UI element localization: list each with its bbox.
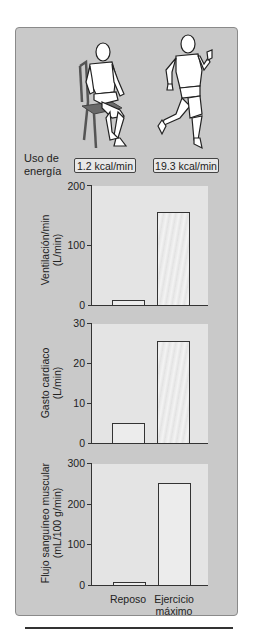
muscle-y-label: Flujo sanguíneo muscular (mL/100 g/min) [39, 457, 65, 589]
bar-rest [112, 423, 145, 444]
bar-exercise [157, 341, 190, 444]
y-tick-label: 0 [55, 299, 85, 311]
y-label-line2: (L/min) [51, 200, 63, 300]
x-label-rest: Reposo [108, 593, 148, 605]
tick-mark [87, 504, 91, 505]
ventilation-y-axis [91, 185, 92, 305]
tick-mark [87, 363, 91, 364]
tick-mark [87, 544, 91, 545]
tick-mark [87, 185, 91, 186]
bar-exercise [158, 483, 191, 586]
y-tick-label: 200 [55, 180, 85, 192]
seated-person-icon [72, 42, 134, 150]
x-label-exercise: Ejercicio máximo [150, 593, 198, 617]
y-tick-label: 30 [55, 317, 85, 329]
y-label-line1: Flujo sanguíneo muscular [39, 457, 51, 589]
tick-mark [87, 463, 91, 464]
muscle-y-axis [91, 463, 92, 585]
ventilation-plot-area [91, 186, 208, 305]
tick-mark [87, 323, 91, 324]
cardiac-y-label: Gasto cardiaco (L/min) [39, 333, 65, 433]
x-label-exercise-line2: máximo [150, 605, 198, 617]
bar-rest [113, 582, 146, 586]
energy-label-line1: Uso de [24, 152, 61, 165]
bar-exercise [157, 212, 190, 306]
exercise-energy-value: 19.3 kcal/min [153, 158, 219, 173]
y-label-line1: Ventilación/min [39, 200, 51, 300]
ventilation-x-axis [88, 305, 208, 306]
y-label-line1: Gasto cardiaco [39, 333, 51, 433]
cardiac-x-axis [88, 443, 208, 444]
energy-use-label: Uso de energía [24, 152, 61, 178]
energy-label-line2: energía [24, 165, 61, 178]
y-label-line2: (mL/100 g/min) [51, 457, 63, 589]
x-label-exercise-line1: Ejercicio [150, 593, 198, 605]
rest-energy-value: 1.2 kcal/min [74, 158, 136, 173]
y-label-line2: (L/min) [51, 333, 63, 433]
tick-mark [87, 245, 91, 246]
y-tick-label: 0 [55, 437, 85, 449]
cardiac-plot-area [91, 324, 208, 443]
bar-rest [112, 300, 145, 306]
running-person-icon [154, 34, 216, 150]
ventilation-y-label: Ventilación/min (L/min) [39, 200, 65, 300]
cardiac-y-axis [91, 323, 92, 443]
bottom-rule [25, 627, 233, 629]
tick-mark [87, 403, 91, 404]
